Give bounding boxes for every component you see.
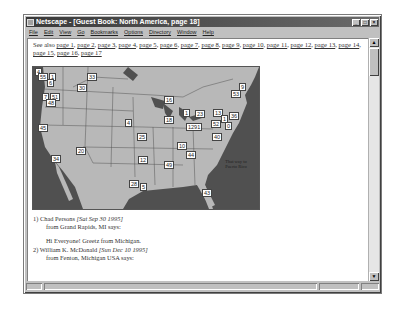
menu-options[interactable]: Options <box>124 28 143 37</box>
progress-bar <box>319 283 359 290</box>
entry-date: [Sat Sep 30 1995] <box>77 215 123 222</box>
entry-message: Hi Everyone! Greetz from Michigan. <box>33 237 363 245</box>
page-link-16[interactable]: page 16 <box>57 49 78 56</box>
menu-help[interactable]: Help <box>203 28 214 37</box>
menu-window[interactable]: Window <box>177 28 197 37</box>
page-content: See also page 1, page 2, page 3, page 4,… <box>27 38 368 281</box>
map-marker[interactable]: 12 <box>138 156 148 164</box>
entry-date: [Sun Dec 10 1995] <box>99 246 148 253</box>
map-marker[interactable]: 10 <box>177 142 187 150</box>
menu-bar: File Edit View Go Bookmarks Options Dire… <box>26 28 379 37</box>
puerto-rico-note: That way to Puerto Rico <box>219 159 253 169</box>
status-bar <box>26 282 379 291</box>
minimize-button[interactable]: _ <box>352 19 360 26</box>
maximize-button[interactable]: □ <box>361 19 369 26</box>
map-marker[interactable]: 33 <box>87 73 97 81</box>
map-marker[interactable]: 40 <box>212 133 222 141</box>
map-marker[interactable]: 23 <box>195 110 205 118</box>
entry-location: from Grand Rapids, MI says: <box>33 223 363 231</box>
see-also-links: See also page 1, page 2, page 3, page 4,… <box>33 41 363 57</box>
guestbook-entries: 1) Chad Persons [Sat Sep 30 1995] from G… <box>33 215 363 262</box>
map-marker[interactable]: 18 <box>164 116 174 124</box>
map-marker[interactable]: 44 <box>186 151 196 159</box>
map-marker[interactable]: 5 <box>140 183 147 191</box>
entry-number: 2) <box>33 246 38 253</box>
map-marker[interactable]: 4 <box>125 119 132 127</box>
menu-view[interactable]: View <box>59 28 71 37</box>
entry-author: Chad Persons <box>40 215 75 222</box>
netscape-app-icon[interactable] <box>27 19 34 26</box>
browser-window: Netscape - [Guest Book: North America, p… <box>23 14 382 294</box>
page-link-3[interactable]: page 3 <box>98 41 115 48</box>
see-also-label: See also <box>33 41 56 48</box>
map-marker[interactable]: 0 <box>225 122 232 130</box>
north-america-map[interactable]: 4551633307514845416118231395336152012914… <box>32 66 260 210</box>
map-marker[interactable]: 45 <box>38 124 48 132</box>
map-marker[interactable]: 43 <box>202 189 212 197</box>
window-title: Netscape - [Guest Book: North America, p… <box>36 17 352 27</box>
page-link-2[interactable]: page 2 <box>77 41 94 48</box>
menu-bookmarks[interactable]: Bookmarks <box>91 28 119 37</box>
page-link-7[interactable]: page 7 <box>181 41 198 48</box>
security-key-icon <box>26 283 42 290</box>
entry-1-header: 1) Chad Persons [Sat Sep 30 1995] <box>33 215 363 223</box>
entry-location: from Fenton, Michigan USA says: <box>33 254 363 262</box>
menu-go[interactable]: Go <box>77 28 84 37</box>
map-marker[interactable]: 34 <box>51 155 61 163</box>
map-marker[interactable]: 48 <box>46 99 56 107</box>
page-link-5[interactable]: page 5 <box>139 41 156 48</box>
menu-edit[interactable]: Edit <box>44 28 53 37</box>
map-marker[interactable]: 52 <box>211 120 221 128</box>
map-marker[interactable]: 53 <box>231 90 241 98</box>
page-link-13[interactable]: page 13 <box>315 41 336 48</box>
page-link-6[interactable]: page 6 <box>160 41 177 48</box>
scroll-down-arrow-icon[interactable]: ▼ <box>369 272 379 281</box>
menu-file[interactable]: File <box>29 28 38 37</box>
vertical-scrollbar[interactable]: ▲ ▼ <box>368 38 379 281</box>
map-marker[interactable]: 36 <box>229 112 239 120</box>
map-marker[interactable]: 30 <box>77 84 87 92</box>
page-link-14[interactable]: page 14 <box>339 41 360 48</box>
page-link-1[interactable]: page 1 <box>56 41 73 48</box>
map-marker[interactable]: 1291 <box>186 123 202 131</box>
page-link-4[interactable]: page 4 <box>119 41 136 48</box>
map-marker[interactable]: 20 <box>76 147 86 155</box>
scroll-up-arrow-icon[interactable]: ▲ <box>369 38 379 47</box>
page-link-8[interactable]: page 8 <box>201 41 218 48</box>
menu-directory[interactable]: Directory <box>149 28 171 37</box>
map-marker[interactable]: 49 <box>164 161 174 169</box>
page-link-17[interactable]: page 17 <box>81 49 102 56</box>
title-bar[interactable]: Netscape - [Guest Book: North America, p… <box>26 17 379 27</box>
page-link-9[interactable]: page 9 <box>222 41 239 48</box>
entry-number: 1) <box>33 215 38 222</box>
map-marker[interactable]: 6 <box>47 79 54 87</box>
map-marker[interactable]: 28 <box>129 180 139 188</box>
page-link-10[interactable]: page 10 <box>243 41 264 48</box>
entry-2-header: 2) William K. McDonald [Sun Dec 10 1995] <box>33 246 363 254</box>
status-text <box>44 283 317 290</box>
mail-icon[interactable] <box>361 283 379 290</box>
page-link-11[interactable]: page 11 <box>267 41 287 48</box>
scroll-thumb[interactable] <box>369 48 379 76</box>
page-link-15[interactable]: page 15 <box>33 49 54 56</box>
close-button[interactable]: × <box>370 19 378 26</box>
map-marker[interactable]: 25 <box>137 133 147 141</box>
page-link-12[interactable]: page 12 <box>291 41 312 48</box>
entry-author: William K. McDonald <box>40 246 97 253</box>
map-marker[interactable]: 1 <box>183 109 190 117</box>
map-marker[interactable]: 16 <box>164 96 174 104</box>
